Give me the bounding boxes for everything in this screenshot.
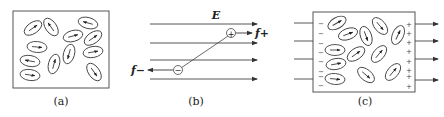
panel-c: − − − − − − − − + + + + + + + + xyxy=(294,12,438,108)
svg-text:−: − xyxy=(318,58,324,66)
minus-sign: − xyxy=(175,66,182,75)
dipoles-aligned xyxy=(325,13,408,85)
panel-b: E + − f+ f− (b) xyxy=(130,9,269,108)
svg-text:−: − xyxy=(318,82,324,90)
svg-text:−: − xyxy=(318,73,324,81)
force-minus-label: f− xyxy=(130,64,145,77)
svg-text:+: + xyxy=(406,30,412,38)
caption-b: (b) xyxy=(188,95,204,108)
force-plus-label: f+ xyxy=(254,27,269,40)
negative-surface-charges: − − − − − − − − xyxy=(318,20,324,90)
positive-surface-charges: + + + + + + + + xyxy=(406,21,412,91)
caption-a: (a) xyxy=(53,95,68,108)
plus-sign: + xyxy=(228,30,235,39)
incoming-field-lines xyxy=(294,23,313,79)
svg-text:+: + xyxy=(406,48,412,56)
caption-c: (c) xyxy=(358,95,373,108)
dipoles-random xyxy=(19,15,104,83)
svg-text:−: − xyxy=(318,40,324,48)
svg-text:−: − xyxy=(318,49,324,57)
outgoing-field-lines xyxy=(415,24,438,80)
svg-text:−: − xyxy=(318,20,324,28)
svg-text:+: + xyxy=(406,39,412,47)
svg-text:+: + xyxy=(406,58,412,66)
dipole-axis xyxy=(178,34,231,70)
dielectric-polarization-diagram: (a) E + − f+ f− (b) xyxy=(0,0,444,117)
svg-text:−: − xyxy=(318,30,324,38)
field-label-E: E xyxy=(211,9,221,22)
field-lines xyxy=(150,24,257,79)
svg-text:+: + xyxy=(406,73,412,81)
panel-a-frame xyxy=(13,11,109,88)
svg-text:+: + xyxy=(406,21,412,29)
panel-a: (a) xyxy=(13,11,109,108)
svg-text:+: + xyxy=(406,83,412,91)
